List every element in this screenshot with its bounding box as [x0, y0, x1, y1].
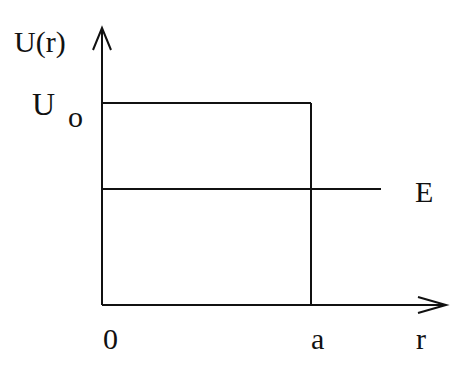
width-label: a [311, 322, 324, 355]
potential-diagram: U(r) U o E 0 a r [0, 0, 467, 374]
origin-label: 0 [103, 322, 118, 355]
y-axis-label: U(r) [14, 25, 66, 59]
energy-label: E [415, 175, 433, 208]
barrier-height-label: U [32, 86, 55, 122]
barrier-height-subscript: o [68, 100, 83, 133]
x-axis-label: r [416, 322, 426, 355]
